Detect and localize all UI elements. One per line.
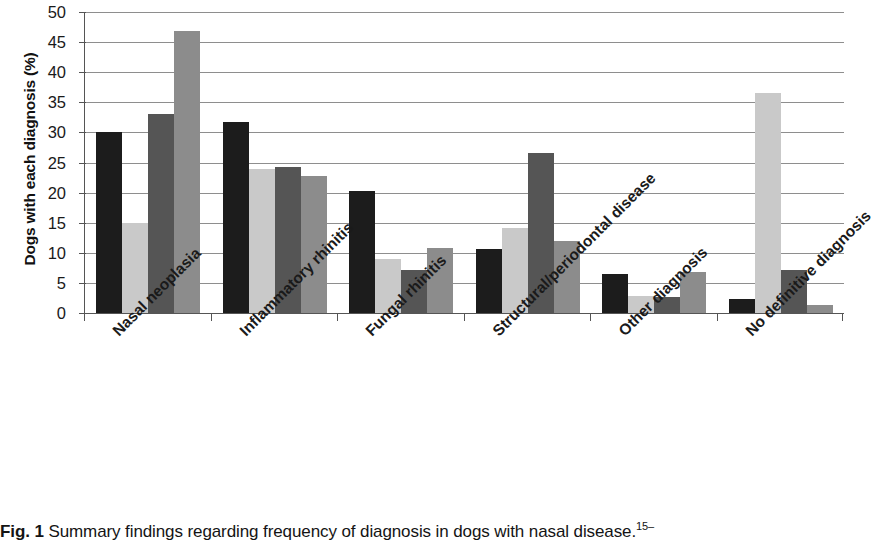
- bar: [96, 132, 122, 313]
- y-axis-tick-label: 15: [48, 213, 66, 232]
- x-axis-category-labels: Nasal neoplasiaInflammatory rhinitisFung…: [0, 313, 848, 503]
- y-axis-tick-label: 50: [48, 3, 66, 22]
- bar: [755, 93, 781, 313]
- bar: [223, 122, 249, 313]
- y-axis-tick-label: 25: [48, 153, 66, 172]
- y-axis-tick-label: 40: [48, 63, 66, 82]
- y-axis-tick-label: 5: [57, 273, 66, 292]
- bar: [349, 191, 375, 313]
- y-axis-tick-label: 45: [48, 33, 66, 52]
- bars-layer: [85, 12, 844, 313]
- y-axis-tick-label: 35: [48, 93, 66, 112]
- y-axis-tick-label: 10: [48, 243, 66, 262]
- figure-number: Fig. 1: [0, 522, 44, 541]
- bar: [729, 299, 755, 313]
- plot-area: [84, 12, 844, 313]
- bar: [476, 249, 502, 313]
- y-axis-tick-labels: 05101520253035404550: [0, 12, 78, 313]
- figure-caption-reference: 15–: [636, 520, 654, 532]
- bar: [602, 274, 628, 313]
- y-axis-tick-label: 20: [48, 183, 66, 202]
- figure-caption: Fig. 1 Summary findings regarding freque…: [0, 520, 848, 542]
- bar: [807, 305, 833, 313]
- y-axis-tick-label: 30: [48, 123, 66, 142]
- figure-caption-text: Summary findings regarding frequency of …: [48, 522, 636, 541]
